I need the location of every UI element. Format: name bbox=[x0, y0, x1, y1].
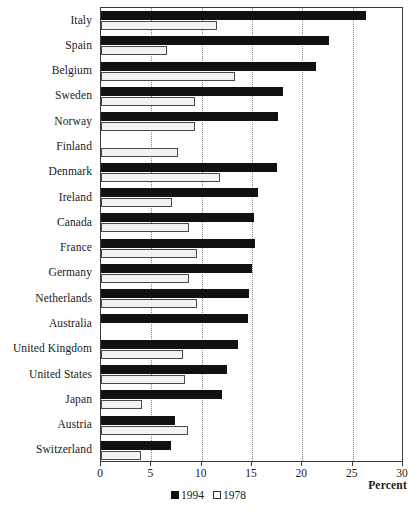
tick-mark bbox=[402, 462, 403, 466]
bar-1994 bbox=[101, 340, 238, 349]
bar-1994 bbox=[101, 416, 175, 425]
bar-1978 bbox=[101, 426, 188, 435]
category-label: Netherlands bbox=[35, 292, 92, 304]
bar-1994 bbox=[101, 11, 366, 20]
bar-1994 bbox=[101, 289, 249, 298]
empty-square-icon bbox=[213, 491, 221, 499]
bar-1994 bbox=[101, 213, 254, 222]
bar-1994 bbox=[101, 390, 222, 399]
bar-1994 bbox=[101, 264, 252, 273]
category-label: Italy bbox=[70, 14, 92, 26]
bar-1994 bbox=[101, 36, 329, 45]
tick-label: 20 bbox=[286, 467, 316, 480]
category-label: Ireland bbox=[59, 191, 92, 203]
tick-mark bbox=[352, 462, 353, 466]
plot-area bbox=[100, 7, 403, 462]
tick-mark bbox=[251, 462, 252, 466]
category-label: Switzerland bbox=[36, 443, 92, 455]
chart-legend: 1994 1978 bbox=[0, 489, 417, 501]
bar-1978 bbox=[101, 350, 183, 359]
bar-1978 bbox=[101, 274, 189, 283]
tick-label: 25 bbox=[337, 467, 367, 480]
legend-label-1994: 1994 bbox=[181, 489, 204, 501]
legend-item-1978: 1978 bbox=[213, 489, 246, 501]
bar-1978 bbox=[101, 375, 185, 384]
tick-label: 5 bbox=[135, 467, 165, 480]
tick-label: 15 bbox=[236, 467, 266, 480]
bar-1994 bbox=[101, 62, 316, 71]
legend-item-1994: 1994 bbox=[171, 489, 204, 501]
bar-1994 bbox=[101, 441, 171, 450]
category-label: Finland bbox=[56, 140, 92, 152]
category-label: United States bbox=[29, 368, 92, 380]
bar-1978 bbox=[101, 223, 189, 232]
bar-1994 bbox=[101, 314, 248, 323]
category-label: Canada bbox=[57, 216, 92, 228]
bar-1994 bbox=[101, 365, 227, 374]
category-label: Australia bbox=[49, 317, 92, 329]
tick-mark bbox=[301, 462, 302, 466]
bar-1978 bbox=[101, 21, 217, 30]
bar-1994 bbox=[101, 112, 278, 121]
bar-1978 bbox=[101, 299, 197, 308]
bar-1978 bbox=[101, 148, 178, 157]
bar-1978 bbox=[101, 198, 172, 207]
bar-1978 bbox=[101, 400, 142, 409]
tick-label: 10 bbox=[186, 467, 216, 480]
category-label: Sweden bbox=[55, 89, 92, 101]
category-label: Germany bbox=[49, 266, 93, 278]
category-label: Norway bbox=[54, 115, 92, 127]
bar-1994 bbox=[101, 87, 283, 96]
tick-mark bbox=[150, 462, 151, 466]
bar-1994 bbox=[101, 163, 277, 172]
bar-1978 bbox=[101, 122, 195, 131]
category-axis-labels: ItalySpainBelgiumSwedenNorwayFinlandDenm… bbox=[0, 7, 96, 462]
category-label: Denmark bbox=[49, 165, 93, 177]
category-label: Austria bbox=[57, 418, 92, 430]
bar-1978 bbox=[101, 451, 141, 460]
gridline bbox=[302, 8, 303, 461]
gridline bbox=[353, 8, 354, 461]
category-label: United Kingdom bbox=[13, 342, 92, 354]
category-label: Japan bbox=[65, 393, 92, 405]
bar-1978 bbox=[101, 46, 167, 55]
bar-1978 bbox=[101, 97, 195, 106]
category-label: Belgium bbox=[52, 64, 92, 76]
filled-square-icon bbox=[171, 491, 179, 499]
bar-chart: ItalySpainBelgiumSwedenNorwayFinlandDenm… bbox=[0, 0, 417, 513]
tick-label: 0 bbox=[85, 467, 115, 480]
bar-1978 bbox=[101, 249, 197, 258]
tick-mark bbox=[100, 462, 101, 466]
gridline bbox=[252, 8, 253, 461]
category-label: France bbox=[60, 241, 92, 253]
bar-1978 bbox=[101, 173, 220, 182]
category-label: Spain bbox=[65, 39, 92, 51]
bar-1994 bbox=[101, 239, 255, 248]
bar-1994 bbox=[101, 188, 258, 197]
bar-1978 bbox=[101, 72, 235, 81]
tick-mark bbox=[201, 462, 202, 466]
legend-label-1978: 1978 bbox=[223, 489, 246, 501]
